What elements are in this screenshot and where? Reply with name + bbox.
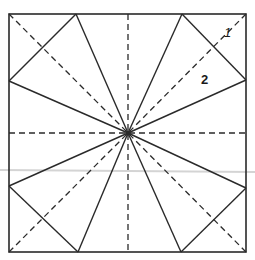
label-2: 2 [201,72,208,87]
ray-bottom-left-line [78,133,128,252]
ray-right-bottom-line [128,133,246,188]
diagonal-top-left-dashed-line [9,14,128,133]
ray-right-top-line [128,80,246,133]
label-1: 1 [224,25,231,40]
ray-top-right-line [128,14,182,133]
step-labels: 1 2 [201,25,231,87]
ray-left-top-line [9,81,128,133]
ray-bottom-right-line [128,133,181,252]
scan-artifact-line [0,170,255,172]
diagonal-bottom-right-dashed-line [128,133,246,252]
diagonal-bottom-left-dashed-line [9,133,128,252]
ray-top-left-line [76,14,128,133]
fold-diagram: 1 2 [0,0,255,260]
ray-left-bottom-line [9,133,128,186]
center-point [126,131,131,136]
